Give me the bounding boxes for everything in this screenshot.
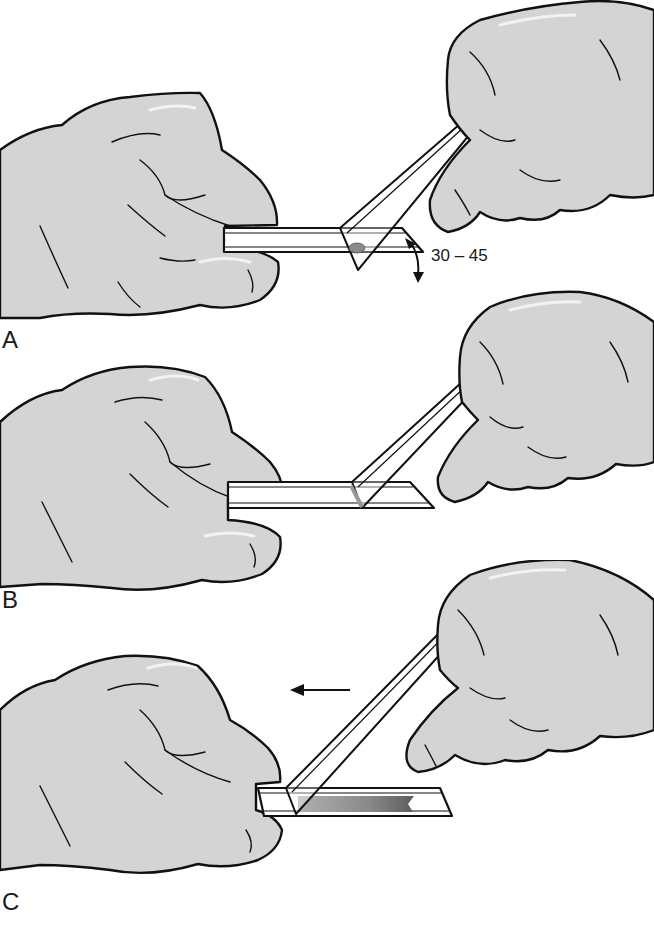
angle-arrow-icon — [405, 238, 424, 283]
right-hand-icon — [438, 292, 654, 502]
right-hand-icon — [430, 1, 654, 232]
glass-slide — [228, 482, 434, 508]
left-hand-icon — [0, 656, 282, 873]
blood-smear — [298, 796, 414, 812]
panel-a: 30 – 45 A — [0, 0, 654, 320]
angle-label: 30 – 45 — [431, 246, 488, 266]
panel-c-illustration — [0, 560, 654, 937]
blood-drop-icon — [349, 243, 365, 253]
panel-c: C — [0, 560, 654, 937]
panel-a-illustration — [0, 0, 654, 320]
glass-slide — [224, 228, 423, 252]
left-hand-icon — [0, 366, 283, 589]
panel-label-c: C — [2, 888, 19, 916]
right-hand-icon — [406, 560, 654, 772]
direction-arrow-icon — [290, 684, 350, 696]
